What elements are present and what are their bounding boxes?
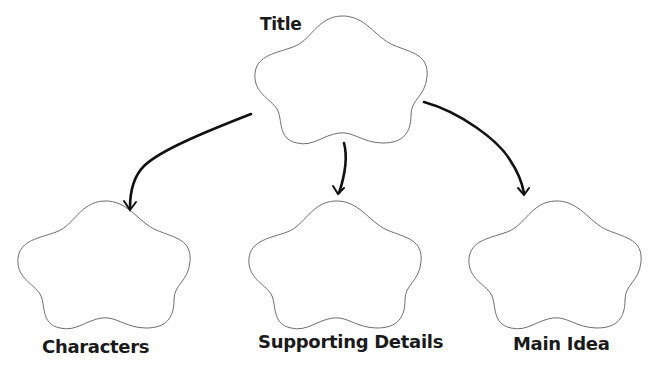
- arrow-title-to-characters: [124, 114, 251, 210]
- characters-label: Characters: [42, 336, 149, 357]
- cloud-characters[interactable]: [18, 201, 190, 329]
- title-label: Title: [260, 14, 301, 34]
- cloud-supporting-details[interactable]: [249, 201, 421, 329]
- arrow-title-to-supporting-details: [333, 143, 346, 194]
- main-idea-label: Main Idea: [513, 333, 610, 354]
- supporting-details-label: Supporting Details: [258, 331, 443, 352]
- arrow-title-to-main-idea: [424, 102, 529, 195]
- cloud-main-idea[interactable]: [469, 201, 641, 329]
- diagram-canvas: [0, 0, 654, 366]
- cloud-title[interactable]: [255, 16, 427, 144]
